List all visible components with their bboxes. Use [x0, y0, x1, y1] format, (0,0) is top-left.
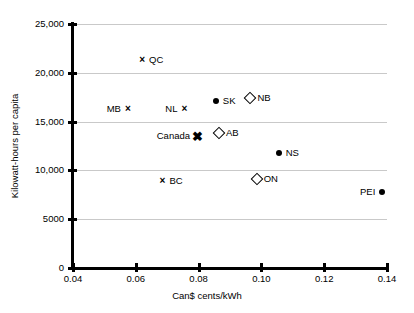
data-point-label: NS — [286, 148, 299, 158]
y-axis-tick — [68, 23, 77, 26]
gridline — [73, 24, 387, 25]
data-point-label: Canada — [157, 131, 190, 141]
data-point-label: ON — [264, 174, 278, 184]
diamond-marker-icon — [244, 92, 257, 105]
y-tick-label: 15,000 — [35, 117, 64, 127]
diamond-marker-icon — [250, 173, 263, 186]
x-axis-tick — [198, 263, 201, 272]
data-point-label: NL — [165, 104, 177, 114]
y-axis-tick — [68, 218, 77, 221]
x-axis-tick — [135, 263, 138, 272]
data-point-label: SK — [223, 96, 236, 106]
gridline — [73, 122, 387, 123]
x-tick-label: 0.08 — [179, 274, 219, 284]
cross-marker-icon: × — [125, 104, 131, 114]
data-point-label: NB — [257, 93, 270, 103]
x-tick-label: 0.04 — [53, 274, 93, 284]
gridline — [73, 170, 387, 171]
data-point-label: PEI — [360, 187, 375, 197]
x-tick-label: 0.10 — [241, 274, 281, 284]
y-tick-label: 25,000 — [35, 19, 64, 29]
data-point-label: AB — [226, 128, 239, 138]
y-axis-title: Kilowatt-hours per capita — [7, 24, 21, 268]
x-axis-line — [71, 267, 389, 270]
data-point-label: MB — [107, 104, 121, 114]
plot-area: ×QC×MB×NLSKNB✖CanadaABNSON×BCPEI — [73, 24, 387, 268]
circle-marker-icon — [276, 150, 282, 156]
bold-cross-marker-icon: ✖ — [192, 130, 202, 143]
gridline — [73, 219, 387, 220]
cross-marker-icon: × — [160, 176, 166, 186]
y-axis-tick — [68, 72, 77, 75]
y-tick-label: 10,000 — [35, 165, 64, 175]
diamond-marker-icon — [213, 127, 226, 140]
data-point-label: QC — [149, 55, 163, 65]
x-axis-tick — [72, 263, 75, 272]
gridline — [73, 73, 387, 74]
cross-marker-icon: × — [139, 55, 145, 65]
x-tick-label: 0.12 — [304, 274, 344, 284]
x-tick-label: 0.06 — [116, 274, 156, 284]
cross-marker-icon: × — [182, 104, 188, 114]
y-axis-tick — [68, 121, 77, 124]
x-axis-tick — [260, 263, 263, 272]
x-axis-tick — [323, 263, 326, 272]
data-point-label: BC — [169, 176, 182, 186]
y-axis-line — [71, 22, 74, 270]
y-tick-label: 5000 — [43, 214, 64, 224]
scatter-chart: ×QC×MB×NLSKNB✖CanadaABNSON×BCPEI 0500010… — [0, 0, 414, 313]
x-tick-label: 0.14 — [367, 274, 407, 284]
y-axis-title-text: Kilowatt-hours per capita — [9, 94, 20, 199]
y-tick-label: 20,000 — [35, 68, 64, 78]
circle-marker-icon — [379, 189, 385, 195]
x-axis-title: Can$ cents/kWh — [0, 290, 414, 301]
x-axis-tick — [386, 263, 389, 272]
y-axis-tick — [68, 169, 77, 172]
circle-marker-icon — [213, 98, 219, 104]
y-tick-label: 0 — [59, 263, 64, 273]
